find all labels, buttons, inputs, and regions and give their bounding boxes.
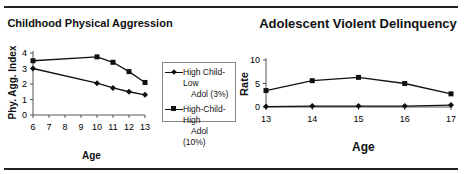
svg-text:12: 12	[124, 122, 134, 132]
svg-text:15: 15	[353, 114, 363, 124]
legend-item-high-adol: High-Child-HighAdol (10%)	[165, 104, 233, 148]
svg-text:3: 3	[22, 64, 27, 74]
svg-text:1: 1	[22, 95, 27, 105]
svg-text:9: 9	[78, 122, 83, 132]
svg-text:0: 0	[22, 110, 27, 120]
svg-text:2: 2	[22, 79, 27, 89]
legend-item-low-adol: High Child-LowAdol (3%)	[165, 67, 233, 100]
legend: High Child-LowAdol (3%) High-Child-HighA…	[162, 62, 236, 122]
svg-text:16: 16	[400, 114, 410, 124]
svg-text:4: 4	[22, 48, 27, 58]
svg-text:10: 10	[92, 122, 102, 132]
svg-text:8: 8	[62, 122, 67, 132]
svg-text:5: 5	[255, 79, 260, 89]
svg-text:13: 13	[261, 114, 271, 124]
diamond-marker-icon	[165, 72, 183, 73]
svg-text:17: 17	[446, 114, 456, 124]
svg-text:14: 14	[307, 114, 317, 124]
square-marker-icon	[165, 109, 183, 110]
svg-text:11: 11	[108, 122, 117, 132]
svg-text:6: 6	[30, 122, 35, 132]
svg-text:7: 7	[46, 122, 51, 132]
svg-text:10: 10	[250, 55, 260, 65]
svg-text:0: 0	[255, 102, 260, 112]
svg-text:13: 13	[140, 122, 150, 132]
